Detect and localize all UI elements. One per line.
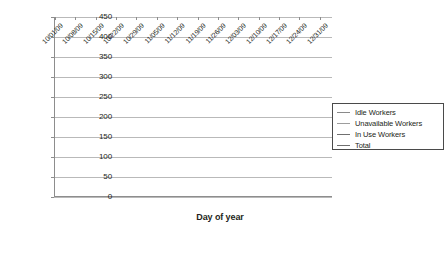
x-tick-mark [320, 17, 321, 20]
legend-item-unavailable-workers: Unavailable Workers [337, 118, 443, 129]
y-tick-label: 0 [72, 193, 112, 201]
legend-item-idle-workers: Idle Workers [337, 107, 443, 118]
legend-label-unavailable-workers: Unavailable Workers [355, 120, 422, 128]
y-axis-line [54, 17, 55, 197]
y-tick-label: 150 [72, 133, 112, 141]
legend-item-total: Total [337, 140, 443, 151]
plot-area: 10/01/0910/08/0910/15/0910/22/0910/29/09… [54, 17, 332, 197]
x-tick-mark [198, 17, 199, 20]
x-tick-mark [116, 17, 117, 20]
x-tick-mark [136, 17, 137, 20]
y-tick-mark [51, 197, 54, 198]
x-tick-mark [279, 17, 280, 20]
legend-swatch-in-use-workers [337, 134, 350, 135]
y-tick-label: 200 [72, 113, 112, 121]
chart-figure: Average number of worker per hour 10/01/… [0, 0, 448, 255]
legend-label-in-use-workers: In Use Workers [355, 131, 405, 139]
y-tick-label: 50 [72, 173, 112, 181]
x-tick-mark [218, 17, 219, 20]
x-tick-mark [299, 17, 300, 20]
y-tick-label: 400 [72, 33, 112, 41]
y-tick-label: 300 [72, 73, 112, 81]
x-tick-mark [157, 17, 158, 20]
chart-legend: Idle Workers Unavailable Workers In Use … [332, 103, 444, 150]
y-tick-label: 450 [72, 13, 112, 21]
y-tick-label: 250 [72, 93, 112, 101]
y-tick-label: 100 [72, 153, 112, 161]
legend-item-in-use-workers: In Use Workers [337, 129, 443, 140]
legend-swatch-total [337, 145, 350, 146]
legend-label-total: Total [355, 142, 370, 150]
x-axis-title: Day of year [54, 212, 386, 222]
x-tick-mark [177, 17, 178, 20]
legend-label-idle-workers: Idle Workers [355, 109, 396, 117]
x-tick-mark [259, 17, 260, 20]
legend-swatch-unavailable-workers [337, 123, 350, 124]
legend-swatch-idle-workers [337, 112, 350, 113]
y-tick-label: 350 [72, 53, 112, 61]
x-tick-mark [55, 17, 56, 20]
x-tick-mark [238, 17, 239, 20]
